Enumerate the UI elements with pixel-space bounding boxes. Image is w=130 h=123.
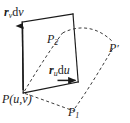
parallelogram-edge-top — [22, 14, 73, 22]
label-ru-du: rudu — [49, 64, 70, 78]
label-P-uv-args: (u,v) — [9, 92, 31, 106]
label-rv-dv: rvdv — [4, 6, 24, 20]
curve-P-to-P1 — [25, 94, 74, 112]
label-P2-subscript: 2 — [54, 38, 58, 47]
curve-P1-to-Pprime — [75, 49, 113, 108]
label-P1-subscript: 1 — [75, 111, 79, 120]
label-point-P1: P1 — [68, 106, 79, 120]
surface-element-figure: rvdv rudu P(u,v) P1 P2 P′ — [0, 0, 130, 123]
vector-arrow-rv-dv — [23, 26, 24, 90]
label-P-prime-mark: ′ — [116, 42, 119, 54]
label-point-P2: P2 — [47, 33, 58, 47]
label-point-P-uv: P(u,v) — [2, 93, 32, 105]
label-point-P-prime: P′ — [109, 42, 119, 54]
curve-P2-to-Pprime — [63, 28, 114, 42]
parallelogram-edge-right — [73, 14, 78, 82]
